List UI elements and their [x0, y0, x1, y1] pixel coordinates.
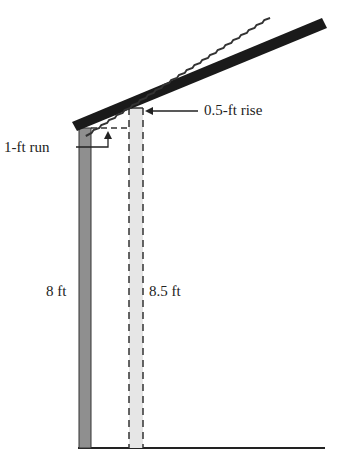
rise-arrow — [145, 107, 198, 115]
short-post-height-label: 8 ft — [46, 284, 66, 299]
short-post — [79, 128, 91, 448]
roof-diagram — [0, 0, 342, 467]
tall-post-height-label: 8.5 ft — [149, 284, 181, 299]
run-label: 1-ft run — [4, 140, 49, 155]
tall-post — [129, 108, 143, 448]
roof — [72, 18, 327, 136]
rise-label: 0.5-ft rise — [204, 103, 262, 118]
